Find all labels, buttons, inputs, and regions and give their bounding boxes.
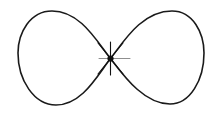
figure-canvas bbox=[0, 0, 221, 118]
lemniscate-figure bbox=[0, 0, 221, 118]
center-node-dot-icon bbox=[107, 55, 113, 61]
